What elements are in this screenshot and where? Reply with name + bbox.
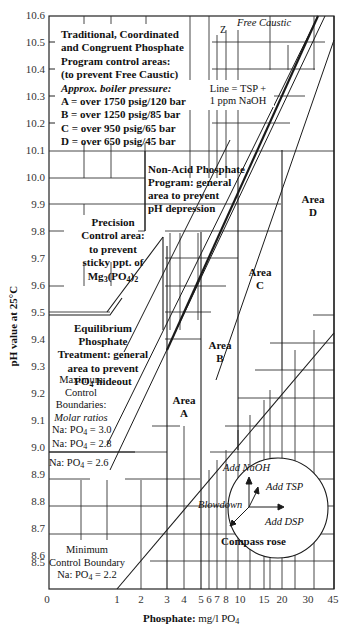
z-label: Z — [220, 24, 226, 35]
max-control-l1: Maximum — [50, 374, 112, 387]
svg-text:9.4: 9.4 — [31, 333, 45, 345]
traditional-l8: C = over 950 psig/65 bar — [61, 122, 186, 135]
traditional-l1: Traditional, Coordinated — [61, 28, 186, 41]
traditional-l7: B = over 1250 psig/85 bar — [61, 108, 186, 121]
tsp-line-label: Line = TSP + 1 ppm NaOH — [202, 83, 274, 107]
x-axis-ticks: 01 23 45 67 810 1520 3045 — [44, 593, 339, 605]
max-control-note: Maximum Control Boundaries: Molar ratios — [50, 374, 112, 424]
traditional-l3: Program control areas: — [61, 55, 186, 68]
svg-text:4: 4 — [181, 593, 187, 605]
ratio-2-6-label: Na: PO4 = 2.6 — [49, 457, 109, 469]
svg-text:3: 3 — [164, 593, 170, 605]
tsp-line-l2: 1 ppm NaOH — [202, 95, 274, 107]
max-control-l3: Boundaries: — [50, 399, 112, 412]
compass-tsp-label: Add TSP — [266, 481, 303, 493]
max-control-l4: Molar ratios — [50, 412, 112, 425]
traditional-program-note: Traditional, Coordinated and Congruent P… — [61, 28, 186, 149]
max-control-l2: Control — [50, 387, 112, 400]
svg-text:5: 5 — [198, 593, 204, 605]
svg-text:9.2: 9.2 — [31, 387, 45, 399]
svg-text:9.0: 9.0 — [31, 441, 45, 453]
y-axis-ticks-low: 8.5 — [31, 556, 45, 568]
svg-text:9.3: 9.3 — [31, 360, 45, 372]
svg-text:30: 30 — [303, 593, 315, 605]
non-acid-program-note: Non-Acid Phosphate Program: general area… — [148, 163, 245, 215]
min-control-l2: Control Boundary — [48, 557, 126, 570]
svg-text:45: 45 — [328, 593, 340, 605]
precision-l4: sticky ppt. of — [72, 256, 154, 269]
x-axis-label-unit: mg/l PO — [196, 612, 236, 624]
min-control-l1: Minimum — [48, 544, 126, 557]
precision-l3: to prevent — [72, 243, 154, 256]
non-acid-l2: Program: general — [148, 176, 245, 189]
ratio-2-8-label: Na: PO4 = 2.8 — [52, 438, 112, 450]
tsp-line-l1: Line = TSP + — [202, 83, 274, 95]
svg-text:8.8: 8.8 — [31, 495, 45, 507]
svg-text:15: 15 — [259, 593, 271, 605]
compass-dsp-label: Add DSP — [265, 516, 304, 528]
y-axis-label: pH value at 25°C — [7, 271, 19, 381]
equilibrium-l3: area to prevent — [50, 362, 156, 375]
svg-text:2: 2 — [138, 593, 144, 605]
compass-blowdown-label: Blowdown — [198, 499, 242, 511]
compass-title: Compass rose — [221, 535, 286, 547]
traditional-l6: A = over 1750 psig/120 bar — [61, 95, 186, 108]
y-axis-ticks: 10.610.5 10.410.3 10.210.1 10.09.9 9.89.… — [26, 9, 46, 569]
area-d-label: AreaD — [299, 193, 327, 219]
svg-text:0: 0 — [44, 593, 50, 605]
svg-text:10: 10 — [235, 593, 247, 605]
svg-text:9.5: 9.5 — [31, 306, 45, 318]
min-control-l3: Na: PO4 = 2.2 — [48, 569, 126, 582]
svg-text:9.6: 9.6 — [31, 279, 45, 291]
non-acid-l1: Non-Acid Phosphate — [148, 163, 245, 176]
svg-text:8.9: 8.9 — [31, 468, 45, 480]
svg-text:10.5: 10.5 — [26, 36, 46, 48]
free-caustic-label: Free Caustic — [237, 17, 291, 29]
x-axis-label-bold: Phosphate: — [143, 612, 196, 624]
equilibrium-l1: Equilibrium Phosphate — [50, 322, 156, 348]
precision-l5: Mg3(PO4)2 — [72, 270, 154, 283]
precision-l2: Control area: — [72, 229, 154, 242]
x-axis-label: Phosphate: mg/l PO4 — [143, 612, 239, 624]
traditional-l2: and Congruent Phosphate — [61, 41, 186, 54]
svg-text:1: 1 — [114, 593, 120, 605]
svg-text:6: 6 — [206, 593, 212, 605]
ratio-3-0-label: Na: PO4 = 3.0 — [52, 424, 112, 436]
svg-text:8: 8 — [223, 593, 229, 605]
precision-l1: Precision — [72, 216, 154, 229]
svg-text:20: 20 — [277, 593, 289, 605]
svg-text:7: 7 — [214, 593, 220, 605]
equilibrium-l2: Treatment: general — [50, 348, 156, 361]
svg-text:10.2: 10.2 — [26, 117, 45, 129]
svg-text:9.7: 9.7 — [31, 252, 45, 264]
svg-text:9.9: 9.9 — [31, 198, 45, 210]
svg-text:9.1: 9.1 — [31, 414, 45, 426]
traditional-l4: (to prevent Free Caustic) — [61, 68, 186, 81]
area-a-label: AreaA — [170, 394, 198, 420]
svg-text:10.4: 10.4 — [26, 63, 46, 75]
area-c-label: AreaC — [246, 266, 274, 292]
precision-control-note: Precision Control area: to prevent stick… — [72, 216, 154, 283]
traditional-l9: D = over 650 psig/45 bar — [61, 135, 186, 148]
min-control-note: Minimum Control Boundary Na: PO4 = 2.2 — [48, 544, 126, 582]
svg-text:8.7: 8.7 — [31, 522, 45, 534]
svg-text:10.3: 10.3 — [26, 90, 46, 102]
non-acid-l3: area to prevent — [148, 189, 245, 202]
svg-text:10.1: 10.1 — [26, 144, 45, 156]
non-acid-l4: pH depression — [148, 202, 245, 215]
svg-text:10.6: 10.6 — [26, 9, 46, 21]
svg-text:9.8: 9.8 — [31, 225, 45, 237]
compass-naoh-label: Add NaOH — [223, 462, 270, 474]
svg-text:10.0: 10.0 — [26, 171, 46, 183]
x-axis-label-sub: 4 — [235, 617, 239, 626]
area-b-label: AreaB — [206, 339, 234, 365]
traditional-l5: Approx. boiler pressure: — [61, 82, 186, 95]
svg-text:8.5: 8.5 — [31, 556, 45, 568]
